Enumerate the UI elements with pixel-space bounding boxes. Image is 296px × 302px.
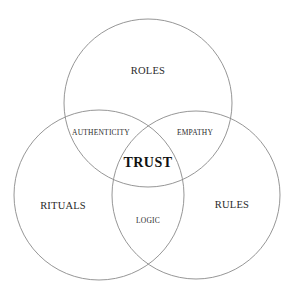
label-rituals: RITUALS [40, 201, 86, 212]
label-logic: LOGIC [136, 217, 160, 225]
label-empathy: EMPATHY [177, 129, 213, 137]
label-roles: ROLES [131, 66, 165, 77]
label-authenticity: AUTHENTICITY [72, 129, 130, 137]
venn-diagram: ROLES AUTHENTICITY EMPATHY TRUST RITUALS… [0, 0, 296, 302]
venn-circles [0, 0, 296, 302]
label-trust: TRUST [123, 156, 172, 170]
label-rules: RULES [215, 200, 249, 211]
